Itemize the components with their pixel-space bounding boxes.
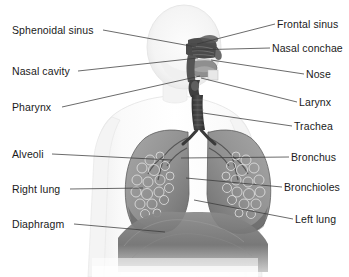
label-nasal-conchae: Nasal conchae bbox=[272, 42, 343, 54]
leader-trachea bbox=[203, 113, 292, 126]
leader-nose bbox=[211, 60, 304, 74]
label-bronchus: Bronchus bbox=[291, 151, 336, 163]
leader-right-lung bbox=[70, 188, 143, 189]
leader-bronchioles bbox=[186, 178, 282, 187]
leader-sphenoidal-sinus bbox=[103, 30, 196, 47]
leader-left-lung bbox=[194, 200, 293, 219]
label-pharynx: Pharynx bbox=[12, 101, 51, 113]
label-trachea: Trachea bbox=[294, 120, 333, 132]
leader-pharynx bbox=[62, 76, 200, 107]
label-nasal-cavity: Nasal cavity bbox=[12, 65, 70, 77]
leader-larynx bbox=[201, 78, 297, 102]
label-left-lung: Left lung bbox=[295, 213, 336, 225]
label-nose: Nose bbox=[306, 68, 331, 80]
label-right-lung: Right lung bbox=[12, 183, 60, 195]
leader-alveoli bbox=[52, 154, 172, 160]
leader-diaphragm bbox=[74, 224, 165, 232]
label-alveoli: Alveoli bbox=[12, 148, 44, 160]
label-bronchioles: Bronchioles bbox=[284, 181, 340, 193]
label-frontal-sinus: Frontal sinus bbox=[277, 18, 338, 30]
leader-bronchus bbox=[181, 157, 289, 158]
label-diaphragm: Diaphragm bbox=[12, 218, 64, 230]
respiratory-system-diagram: Sphenoidal sinus Nasal cavity Pharynx Al… bbox=[0, 0, 349, 277]
leader-nasal-conchae bbox=[192, 48, 270, 50]
leader-frontal-sinus bbox=[197, 24, 275, 44]
label-larynx: Larynx bbox=[299, 96, 331, 108]
leader-nasal-cavity bbox=[78, 58, 198, 71]
label-sphenoidal-sinus: Sphenoidal sinus bbox=[12, 24, 94, 36]
